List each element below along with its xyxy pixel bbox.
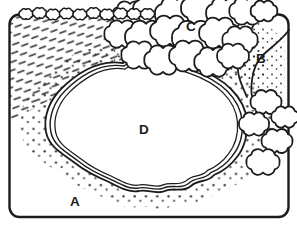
- hand-drawn-landscape-map: A B C D: [0, 0, 297, 228]
- hedge-bump-icon: [127, 9, 141, 20]
- label-region-a: A: [70, 194, 80, 209]
- hedge-bump-icon: [73, 9, 87, 20]
- hedge-bump-icon: [46, 9, 60, 20]
- hedge-bump-icon: [59, 8, 73, 19]
- hedge-bump-icon: [86, 8, 100, 19]
- shrub-icon: [217, 44, 249, 69]
- hedge-bump-icon: [100, 9, 114, 20]
- shrub-icon: [239, 112, 269, 135]
- hedge-bump-icon: [19, 9, 33, 20]
- label-region-b: B: [256, 51, 266, 66]
- label-region-c: C: [186, 19, 196, 34]
- shrub-icon: [246, 149, 279, 175]
- shrub-icon: [251, 1, 278, 22]
- shrub-icon: [271, 106, 297, 127]
- hedge-bump-icon: [113, 8, 127, 19]
- hedge-bump-icon: [140, 9, 154, 20]
- hedge-bump-icon: [32, 8, 46, 19]
- map-figure: A B C D: [0, 0, 297, 228]
- label-region-d: D: [139, 122, 149, 137]
